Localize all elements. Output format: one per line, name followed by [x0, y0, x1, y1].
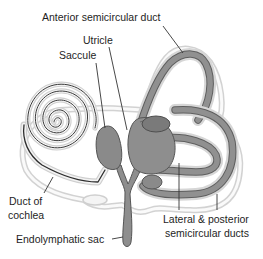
label-saccule: Saccule — [59, 49, 96, 61]
label-duct-of-cochlea-line2: cochlea — [8, 209, 44, 221]
label-endolymphatic-sac: Endolymphatic sac — [16, 233, 104, 245]
leader-utricle — [109, 47, 127, 130]
label-lateral-posterior-line2: semicircular ducts — [165, 227, 249, 239]
saccule — [96, 126, 122, 169]
label-utricle: Utricle — [83, 34, 113, 46]
label-anterior-semicircular-duct: Anterior semicircular duct — [42, 11, 160, 23]
leader-endolymphatic — [112, 237, 123, 239]
label-lateral-posterior-line1: Lateral & posterior — [163, 213, 249, 225]
label-duct-of-cochlea-line1: Duct of — [9, 195, 42, 207]
